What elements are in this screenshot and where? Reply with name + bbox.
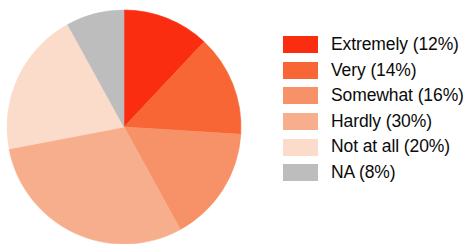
legend-swatch-very [283, 62, 318, 79]
legend-swatch-hardly [283, 113, 318, 130]
legend-item[interactable]: Very (14%) [283, 58, 471, 84]
legend-item[interactable]: NA (8%) [283, 160, 471, 186]
legend-item[interactable]: Not at all (20%) [283, 134, 471, 160]
pie-slice-group [7, 10, 241, 244]
legend-item[interactable]: Extremely (12%) [283, 32, 471, 58]
legend-item-label: Very (14%) [331, 62, 417, 80]
chart-legend: Extremely (12%)Very (14%)Somewhat (16%)H… [283, 32, 471, 186]
legend-swatch-na [283, 164, 318, 181]
legend-item-label: NA (8%) [331, 164, 395, 182]
legend-item-label: Not at all (20%) [331, 138, 450, 156]
pie-chart-plot-area [0, 0, 262, 244]
legend-item[interactable]: Somewhat (16%) [283, 83, 471, 109]
legend-item[interactable]: Hardly (30%) [283, 109, 471, 135]
pie-chart-svg [0, 0, 262, 244]
pie-chart-figure: Extremely (12%)Very (14%)Somewhat (16%)H… [0, 0, 471, 244]
legend-item-label: Hardly (30%) [331, 113, 432, 131]
legend-item-label: Somewhat (16%) [331, 87, 464, 105]
legend-swatch-not-at-all [283, 139, 318, 156]
legend-swatch-extremely [283, 36, 318, 53]
legend-swatch-somewhat [283, 87, 318, 104]
legend-item-label: Extremely (12%) [331, 36, 459, 54]
